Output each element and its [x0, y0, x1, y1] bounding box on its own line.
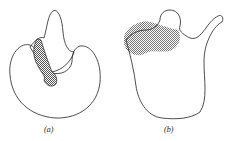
panel-a-label: (a): [44, 125, 53, 134]
panel-a-drawing: [10, 10, 101, 118]
figure-canvas: [0, 0, 242, 141]
panel-b-label: (b): [164, 125, 173, 134]
panel-b-shaded-region: [124, 22, 180, 56]
panel-a-hatched-region: [34, 39, 57, 86]
panel-b-drawing: [124, 10, 223, 119]
